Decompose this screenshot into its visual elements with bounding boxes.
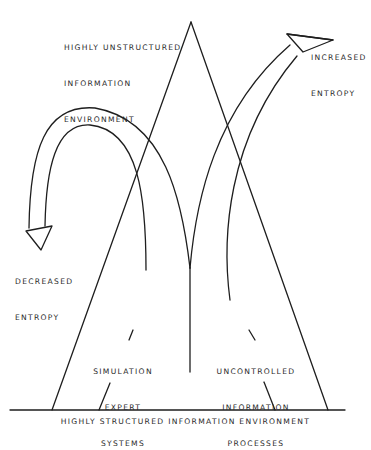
label-top-line-3: ENVIRONMENT xyxy=(64,114,181,126)
label-decreased-line-1: DECREASED xyxy=(15,276,73,288)
label-left-inner-line-2: EXPERT xyxy=(88,402,158,414)
label-left-inner-line-1: SIMULATION xyxy=(88,366,158,378)
label-uncontrolled-information-processes: UNCONTROLLED INFORMATION PROCESSES xyxy=(213,342,299,450)
increased-arrow-inner xyxy=(227,56,297,300)
label-top-line-2: INFORMATION xyxy=(64,78,181,90)
label-right-inner-line-2: INFORMATION xyxy=(213,402,299,414)
label-right-inner-line-1: UNCONTROLLED xyxy=(213,366,299,378)
label-right-inner-line-3: PROCESSES xyxy=(213,438,299,450)
label-increased-entropy: INCREASED ENTROPY xyxy=(311,28,367,124)
label-top-line-1: HIGHLY UNSTRUCTURED xyxy=(64,42,181,54)
label-decreased-line-2: ENTROPY xyxy=(15,312,73,324)
label-top: HIGHLY UNSTRUCTURED INFORMATION ENVIRONM… xyxy=(64,18,181,150)
left-label-leader-top xyxy=(129,330,133,340)
label-decreased-entropy: DECREASED ENTROPY xyxy=(15,252,73,348)
label-left-inner-line-3: SYSTEMS xyxy=(88,438,158,450)
decreased-arrowhead xyxy=(26,226,52,250)
increased-arrow-outer xyxy=(190,45,290,268)
label-base: HIGHLY STRUCTURED INFORMATION ENVIRONMEN… xyxy=(0,416,371,428)
right-label-leader-top xyxy=(249,330,255,340)
label-increased-line-2: ENTROPY xyxy=(311,88,367,100)
label-simulation-expert-systems: SIMULATION EXPERT SYSTEMS xyxy=(88,342,158,450)
label-increased-line-1: INCREASED xyxy=(311,52,367,64)
